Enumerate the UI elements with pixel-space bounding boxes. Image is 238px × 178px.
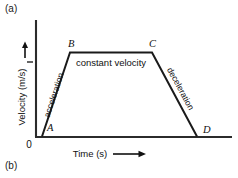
x-axis-title: Time (s) [73, 148, 107, 159]
velocity-time-chart: 0 A B C D acceleration constant velocity… [0, 0, 238, 178]
point-label-b: B [68, 38, 75, 49]
point-label-c: C [149, 38, 157, 49]
origin-label: 0 [26, 139, 32, 150]
point-label-d: D [202, 124, 211, 135]
x-axis-arrow-icon [113, 151, 146, 157]
acceleration-label: acceleration [42, 71, 66, 118]
y-axis-arrow-icon [22, 42, 28, 59]
point-label-a: A [46, 122, 54, 133]
constant-velocity-label: constant velocity [76, 57, 146, 68]
y-axis-title: Velocity (m/s) [16, 68, 27, 125]
velocity-time-figure: (a) (b) 0 A B C D acceleration constant … [0, 0, 238, 178]
